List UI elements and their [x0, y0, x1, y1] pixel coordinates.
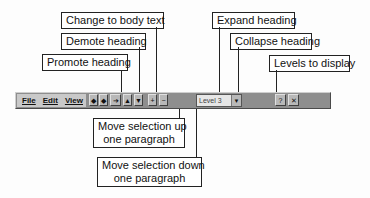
- close-icon: ✕: [291, 97, 297, 104]
- move-up-button[interactable]: ▲: [123, 94, 132, 106]
- chevron-down-icon[interactable]: ▼: [231, 95, 241, 106]
- help-button[interactable]: ?: [275, 94, 286, 106]
- plus-icon: +: [150, 97, 154, 104]
- menu-view[interactable]: View: [65, 96, 83, 105]
- up-arrow-icon: ▲: [124, 97, 131, 104]
- callout-move-up-line1: Move selection up: [98, 120, 180, 133]
- leader-line-move-down: [196, 109, 197, 158]
- promote-heading-button[interactable]: ◆: [89, 94, 98, 106]
- leader-line-expand: [219, 27, 220, 93]
- promote-arrow-icon: ◆: [91, 97, 96, 104]
- callout-expand-heading: Expand heading: [212, 12, 295, 29]
- collapse-heading-button[interactable]: −: [159, 94, 168, 106]
- leader-line-demote: [139, 47, 140, 93]
- move-down-button[interactable]: ▼: [134, 94, 143, 106]
- callout-levels-to-display: Levels to display: [269, 55, 350, 72]
- menu-file[interactable]: File: [22, 96, 36, 105]
- levels-to-display-select[interactable]: Level 3 ▼: [196, 94, 242, 107]
- level-value: Level 3: [197, 97, 231, 104]
- leader-line-collapse: [238, 47, 239, 93]
- callout-move-down-line1: Move selection down: [102, 159, 197, 172]
- outline-toolbar: File Edit View ◆ ◆ ➔ ▲ ▼ + − Level 3 ▼ ?…: [15, 92, 331, 109]
- menu-edit[interactable]: Edit: [43, 96, 58, 105]
- leader-line-levels: [276, 70, 277, 93]
- callout-move-down-line2: one paragraph: [102, 172, 197, 185]
- callout-move-up-line2: one paragraph: [98, 133, 180, 146]
- callout-promote-heading: Promote heading: [42, 54, 128, 71]
- minus-icon: −: [161, 97, 165, 104]
- callout-demote-heading: Demote heading: [61, 33, 146, 50]
- callout-move-selection-down: Move selection down one paragraph: [97, 157, 202, 187]
- leader-line-body-text: [156, 27, 157, 93]
- callout-collapse-heading: Collapse heading: [230, 33, 312, 50]
- leader-line-promote: [121, 70, 122, 93]
- down-arrow-icon: ▼: [135, 97, 142, 104]
- change-to-body-text-button[interactable]: ➔: [110, 94, 121, 106]
- body-text-arrow-icon: ➔: [113, 97, 119, 104]
- question-icon: ?: [279, 97, 283, 104]
- close-button[interactable]: ✕: [288, 94, 299, 106]
- menu-bar: File Edit View: [17, 94, 86, 107]
- expand-heading-button[interactable]: +: [148, 94, 157, 106]
- callout-move-selection-up: Move selection up one paragraph: [93, 118, 185, 148]
- demote-arrow-icon: ◆: [101, 97, 106, 104]
- demote-heading-button[interactable]: ◆: [99, 94, 108, 106]
- callout-change-to-body-text: Change to body text: [61, 12, 164, 29]
